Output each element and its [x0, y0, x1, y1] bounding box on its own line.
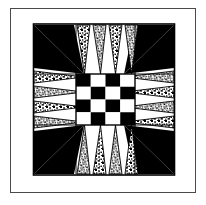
checker-cell-3-3 [120, 112, 135, 125]
checker-cell-0-2 [106, 74, 121, 87]
quilt-block [32, 22, 176, 177]
checker-cell-2-2 [106, 100, 121, 113]
checker-cell-3-1 [91, 112, 106, 125]
quilt-block-svg [32, 22, 176, 177]
checker-cell-0-1 [91, 74, 106, 87]
checker-cell-1-2 [106, 87, 121, 100]
figure-title: Quilt Block Pattern [0, 0, 1, 1]
checker-cell-1-1 [91, 87, 106, 100]
checker-cell-2-1 [91, 100, 106, 113]
center-checkerboard [76, 74, 135, 125]
checker-cell-2-0 [76, 100, 91, 113]
checker-cell-0-3 [120, 74, 135, 87]
checker-cell-3-0 [76, 112, 91, 125]
page-root: Quilt Block Pattern [0, 0, 206, 205]
checker-cell-1-0 [76, 87, 91, 100]
checker-cell-2-3 [120, 100, 135, 113]
checker-cell-0-0 [76, 74, 91, 87]
checker-cell-3-2 [106, 112, 121, 125]
checker-cell-1-3 [120, 87, 135, 100]
